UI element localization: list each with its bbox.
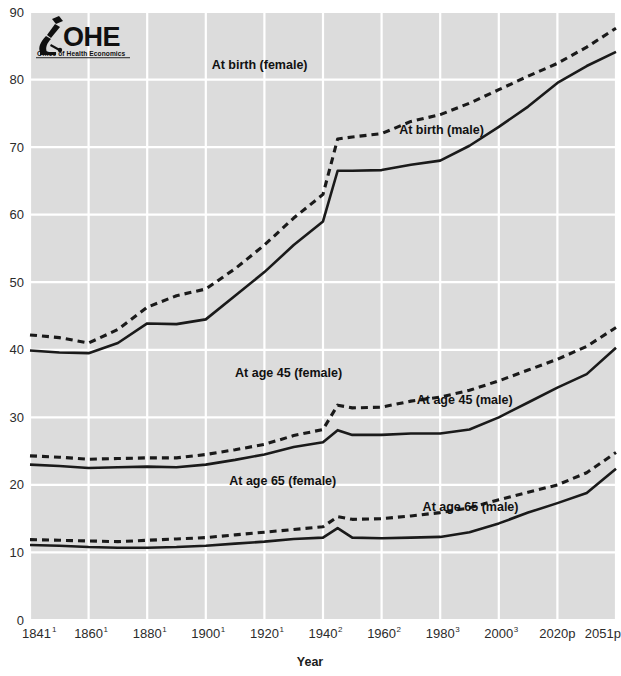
svg-text:2: 2 xyxy=(338,625,343,634)
x-axis-tick-label: 19402 xyxy=(309,625,343,641)
x-axis-tick-label: 19803 xyxy=(426,625,460,641)
y-axis-tick-label: 30 xyxy=(10,410,24,425)
life-expectancy-line-chart: 0102030405060708090 18411186011880119001… xyxy=(0,0,621,676)
chart-title-fragment xyxy=(0,0,621,6)
svg-text:2: 2 xyxy=(397,625,402,634)
y-axis-tick-label: 70 xyxy=(10,140,24,155)
chart-figure: 0102030405060708090 18411186011880119001… xyxy=(0,0,621,676)
series-label: At age 65 (male) xyxy=(423,500,519,514)
x-axis-tick-label: 2020p xyxy=(539,626,575,641)
y-axis-ticks: 0102030405060708090 xyxy=(10,5,24,628)
svg-text:1: 1 xyxy=(279,625,284,634)
svg-text:1980: 1980 xyxy=(426,626,455,641)
x-axis-tick-label: 20003 xyxy=(484,625,518,641)
ohe-logo: OHE Office of Health Economics xyxy=(29,14,133,60)
svg-text:2051p: 2051p xyxy=(585,626,621,641)
svg-text:1841: 1841 xyxy=(22,626,51,641)
svg-text:1880: 1880 xyxy=(133,626,162,641)
svg-text:1940: 1940 xyxy=(309,626,338,641)
svg-text:1: 1 xyxy=(52,625,57,634)
x-axis-tick-label: 2051p xyxy=(585,626,621,641)
y-axis-tick-label: 90 xyxy=(10,5,24,20)
x-axis-ticks: 1841118601188011900119201194021960219803… xyxy=(22,625,621,641)
svg-text:1: 1 xyxy=(104,625,109,634)
x-axis-tick-label: 19001 xyxy=(191,625,225,641)
svg-text:3: 3 xyxy=(455,625,460,634)
svg-text:1: 1 xyxy=(162,625,167,634)
svg-text:1: 1 xyxy=(221,625,226,634)
y-axis-tick-label: 20 xyxy=(10,477,24,492)
ohe-wordmark: OHE xyxy=(63,22,120,52)
y-axis-tick-label: 50 xyxy=(10,275,24,290)
x-axis-tick-label: 18601 xyxy=(74,625,108,641)
series-label: At birth (female) xyxy=(212,58,308,72)
y-axis-tick-label: 80 xyxy=(10,72,24,87)
x-axis-tick-label: 18801 xyxy=(133,625,167,641)
y-axis-tick-label: 10 xyxy=(10,545,24,560)
svg-text:1900: 1900 xyxy=(191,626,220,641)
series-label: At age 45 (female) xyxy=(235,366,342,380)
x-axis-tick-label: 19602 xyxy=(367,625,401,641)
svg-text:2000: 2000 xyxy=(484,626,513,641)
series-label: At age 45 (male) xyxy=(417,393,513,407)
svg-text:1960: 1960 xyxy=(367,626,396,641)
x-axis-tick-label: 18411 xyxy=(22,625,57,641)
x-axis-title: Year xyxy=(297,655,324,669)
svg-text:2020p: 2020p xyxy=(539,626,575,641)
ohe-subtitle: Office of Health Economics xyxy=(37,50,126,57)
svg-text:1860: 1860 xyxy=(74,626,103,641)
series-label: At birth (male) xyxy=(399,123,484,137)
series-label: At age 65 (female) xyxy=(229,474,336,488)
svg-text:3: 3 xyxy=(514,625,519,634)
y-axis-tick-label: 40 xyxy=(10,342,24,357)
svg-text:1920: 1920 xyxy=(250,626,279,641)
y-axis-tick-label: 60 xyxy=(10,207,24,222)
x-axis-tick-label: 19201 xyxy=(250,625,284,641)
